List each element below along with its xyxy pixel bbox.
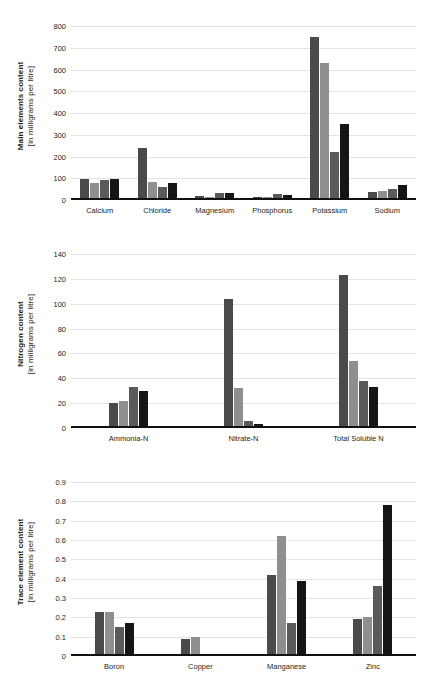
- chart-main-elements: Main elements content [in milligrams per…: [0, 0, 427, 228]
- y-axis-tick-label: 120: [53, 274, 66, 283]
- x-axis-tick-label: Nitrate-N: [186, 434, 301, 443]
- y-axis-title-main-elements: Main elements content [in milligrams per…: [14, 16, 38, 196]
- gridline: 0: [71, 200, 416, 201]
- bar: [129, 387, 138, 428]
- x-axis-line-trace-elements: [71, 654, 416, 656]
- bar: [359, 381, 368, 428]
- y-axis-tick-label: 0.9: [56, 478, 66, 487]
- bar-group: [301, 26, 359, 200]
- bars-main-elements: [71, 26, 416, 200]
- y-axis-tick-label: 0.4: [56, 574, 66, 583]
- plot-area-nitrogen: 020406080100120140: [71, 254, 416, 428]
- y-axis-title-line1: Trace element content: [16, 519, 26, 606]
- bar-group: [244, 26, 302, 200]
- y-axis-tick-label: 200: [53, 152, 66, 161]
- bar: [109, 403, 118, 428]
- x-axis-tick-label: Potassium: [301, 206, 359, 215]
- bar: [119, 401, 128, 428]
- bar-group: [129, 26, 187, 200]
- figure-container: Main elements content [in milligrams per…: [0, 0, 427, 684]
- y-axis-tick-label: 0: [62, 196, 66, 205]
- y-axis-tick-label: 80: [58, 324, 66, 333]
- bar: [234, 388, 243, 428]
- bar: [287, 623, 296, 656]
- y-axis-tick-label: 100: [53, 174, 66, 183]
- x-axis-tick-label: Phosphorus: [244, 206, 302, 215]
- y-axis-tick-label: 0.3: [56, 594, 66, 603]
- x-axis-line-main-elements: [71, 198, 416, 200]
- bar: [320, 63, 329, 200]
- bar: [110, 179, 119, 200]
- y-axis-tick-label: 300: [53, 130, 66, 139]
- x-axis-tick-label: Ammonia-N: [71, 434, 186, 443]
- y-axis-tick-label: 0: [62, 652, 66, 661]
- bar: [224, 299, 233, 428]
- bar: [267, 575, 276, 656]
- y-axis-tick-label: 0.6: [56, 536, 66, 545]
- x-axis-line-nitrogen: [71, 426, 416, 428]
- y-axis-tick-label: 20: [58, 399, 66, 408]
- y-axis-tick-label: 60: [58, 349, 66, 358]
- x-axis-tick-label: Chloride: [129, 206, 187, 215]
- bar: [363, 617, 372, 656]
- bar: [138, 148, 147, 200]
- x-axis-labels-trace-elements: BoronCopperManganeseZinc: [71, 662, 416, 671]
- y-axis-tick-label: 800: [53, 22, 66, 31]
- y-axis-tick-label: 40: [58, 374, 66, 383]
- gridline: 0: [71, 656, 416, 657]
- bar-group: [186, 26, 244, 200]
- gridline: 0: [71, 428, 416, 429]
- bars-nitrogen: [71, 254, 416, 428]
- bar: [340, 124, 349, 200]
- bar: [105, 612, 114, 656]
- bar-group: [71, 254, 186, 428]
- bar: [353, 619, 362, 656]
- bar: [95, 612, 104, 656]
- x-axis-labels-main-elements: CalciumChlorideMagnesiumPhosphorusPotass…: [71, 206, 416, 215]
- x-axis-tick-label: Boron: [71, 662, 157, 671]
- x-axis-tick-label: Copper: [157, 662, 243, 671]
- x-axis-labels-nitrogen: Ammonia-NNitrate-NTotal Soluble N: [71, 434, 416, 443]
- y-axis-title-line1: Nitrogen content: [16, 301, 26, 367]
- bar: [277, 536, 286, 656]
- bar: [115, 627, 124, 656]
- y-axis-tick-label: 0.1: [56, 632, 66, 641]
- chart-nitrogen: Nitrogen content [in milligrams per litr…: [0, 228, 427, 456]
- y-axis-tick-label: 0.2: [56, 613, 66, 622]
- y-axis-title-line1: Main elements content: [16, 62, 26, 150]
- y-axis-tick-label: 600: [53, 65, 66, 74]
- y-axis-title-line2: [in milligrams per litre]: [26, 66, 36, 146]
- bars-trace-elements: [71, 482, 416, 656]
- x-axis-tick-label: Total Soluble N: [301, 434, 416, 443]
- y-axis-tick-label: 400: [53, 109, 66, 118]
- plot-area-trace-elements: 00.10.20.30.40.50.60.70.80.9: [71, 482, 416, 656]
- bar: [330, 152, 339, 200]
- y-axis-tick-label: 140: [53, 250, 66, 259]
- chart-trace-elements: Trace element content [in milligrams per…: [0, 456, 427, 684]
- bar: [383, 505, 392, 656]
- y-axis-tick-label: 0: [62, 424, 66, 433]
- y-axis-title-line2: [in milligrams per litre]: [26, 522, 36, 602]
- x-axis-tick-label: Sodium: [359, 206, 417, 215]
- bar-group: [359, 26, 417, 200]
- bar: [373, 586, 382, 656]
- bar: [125, 623, 134, 656]
- y-axis-tick-label: 0.5: [56, 555, 66, 564]
- bar-group: [244, 482, 330, 656]
- bar-group: [301, 254, 416, 428]
- x-axis-tick-label: Manganese: [244, 662, 330, 671]
- bar-group: [186, 254, 301, 428]
- bar: [310, 37, 319, 200]
- x-axis-tick-label: Zinc: [330, 662, 416, 671]
- y-axis-tick-label: 0.8: [56, 497, 66, 506]
- bar: [139, 391, 148, 428]
- bar-group: [157, 482, 243, 656]
- x-axis-tick-label: Magnesium: [186, 206, 244, 215]
- bar-group: [330, 482, 416, 656]
- y-axis-tick-label: 700: [53, 43, 66, 52]
- y-axis-tick-label: 500: [53, 87, 66, 96]
- y-axis-title-trace-elements: Trace element content [in milligrams per…: [14, 472, 38, 652]
- bar-group: [71, 482, 157, 656]
- y-axis-tick-label: 100: [53, 299, 66, 308]
- plot-area-main-elements: 0100200300400500600700800: [71, 26, 416, 200]
